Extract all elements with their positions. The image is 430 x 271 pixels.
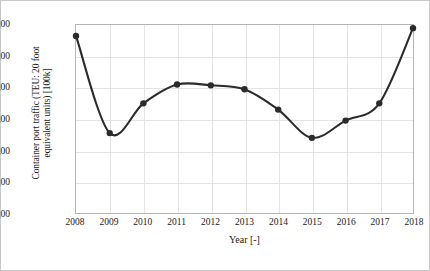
y-axis-label: Container port traffic (TEU: 20 foot equ… <box>23 13 61 213</box>
y-tick-label: 12,00 <box>0 19 10 29</box>
series-line <box>76 28 413 138</box>
data-point: 2017: 7,00 <box>376 100 382 106</box>
data-point: 2015: 4,80 <box>309 135 315 141</box>
data-point: 2016: 5,90 <box>342 117 348 123</box>
y-tick-label: 4,00 <box>0 146 10 156</box>
data-point: 2010: 7,00 <box>140 100 146 106</box>
data-point: 2014: 6,60 <box>275 106 281 112</box>
data-point: 2012: 8,15 <box>208 82 214 88</box>
data-point: 2009: 5,10 <box>107 130 113 136</box>
y-tick-label: 6,00 <box>0 114 10 124</box>
y-tick-label: 8,00 <box>0 82 10 92</box>
x-axis-label: Year [-] <box>75 234 414 245</box>
y-axis-label-line1: Container port traffic (TEU: 20 foot <box>31 46 41 179</box>
data-point: 2013: 7,90 <box>241 86 247 92</box>
data-point: 2008: 11,30 <box>73 33 79 39</box>
y-tick-label: 2,00 <box>0 177 10 187</box>
y-axis-label-line2: equivalent units) [100k] <box>42 69 52 158</box>
y-tick-label: 10,00 <box>0 51 10 61</box>
data-point: 2011: 8,20 <box>174 81 180 87</box>
chart-figure: Container port traffic (TEU: 20 foot equ… <box>0 0 430 271</box>
data-point: 2018: 11,80 <box>410 25 416 31</box>
data-series: 2008: 11,302009: 5,102010: 7,002011: 8,2… <box>76 25 413 213</box>
plot-area: 2008: 11,302009: 5,102010: 7,002011: 8,2… <box>75 24 414 214</box>
x-tick-label: 2018 <box>394 217 430 227</box>
y-tick-label: 0,00 <box>0 209 10 219</box>
